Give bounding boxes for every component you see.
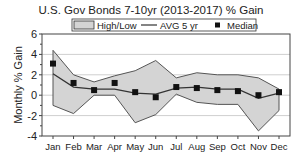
median-marker [50,61,56,67]
line-chart: U.S. Gov Bonds 7-10yr (2013-2017) % Gain… [0,0,303,162]
x-tick-label: Sep [209,141,226,152]
x-tick-label: Jul [170,141,182,152]
legend-swatch-highlow [74,21,94,29]
x-tick-label: Aug [188,141,205,152]
x-tick-label: Jun [148,141,163,152]
median-marker [173,84,179,90]
x-tick-label: Oct [231,141,246,152]
legend-label-highlow: High/Low [97,20,137,31]
median-marker [91,87,97,93]
x-tick-label: Mar [86,141,102,152]
median-marker [214,87,220,93]
legend-marker-median [215,23,220,28]
legend-label-median: Median [227,20,258,31]
y-tick-label: -4 [27,130,37,142]
y-tick-label: 0 [31,89,37,101]
chart-title: U.S. Gov Bonds 7-10yr (2013-2017) % Gain [38,4,263,16]
x-tick-label: Jan [45,141,60,152]
legend-label-avg: AVG 5 yr [160,20,198,31]
y-axis-label: Monthly % Gain [12,46,24,124]
median-marker [235,88,241,94]
x-tick-label: Feb [65,141,81,152]
y-tick-label: 2 [31,69,37,81]
x-tick-label: Dec [271,141,288,152]
median-marker [194,85,200,91]
median-marker [112,80,118,86]
median-marker [132,89,138,95]
median-marker [153,94,159,100]
x-tick-label: May [126,141,144,152]
median-marker [255,92,261,98]
y-tick-label: 6 [31,28,37,40]
x-tick-label: Nov [250,141,267,152]
y-tick-label: 4 [31,48,37,60]
y-tick-label: -2 [27,110,37,122]
median-marker [71,80,77,86]
chart-container: U.S. Gov Bonds 7-10yr (2013-2017) % Gain… [0,0,303,162]
x-tick-label: Apr [107,141,122,152]
median-marker [276,89,282,95]
